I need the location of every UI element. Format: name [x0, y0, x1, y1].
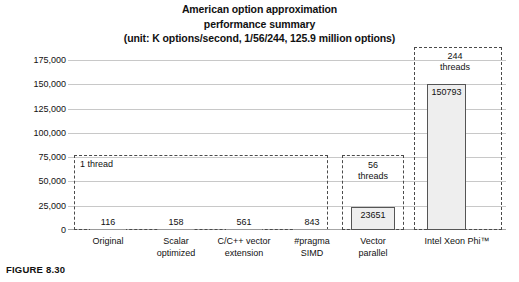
x-label-pragma-simd-line-1: #pragma [294, 236, 330, 246]
y-tick-label-0: 0 [4, 225, 66, 235]
x-label-original: Original [70, 236, 146, 248]
x-label-pragma-simd: #pragma SIMD [274, 236, 350, 259]
x-label-cpp-vector-extension-line-1: C/C++ vector [217, 236, 270, 246]
chart-title: American option approximation performanc… [0, 2, 519, 46]
y-tick-label-175000: 175,000 [4, 55, 66, 65]
y-tick-label-75000: 75,000 [4, 152, 66, 162]
figure-caption: FIGURE 8.30 [6, 264, 65, 275]
group-label-244-threads-line-2: threads [414, 62, 496, 73]
group-label-56-threads-line-2: threads [342, 171, 404, 182]
group-label-244-threads-line-1: 244 [414, 51, 496, 62]
y-tick-label-25000: 25,000 [4, 201, 66, 211]
bar-value-scalar-optimized: 158 [158, 217, 194, 227]
group-label-56-threads-line-1: 56 [342, 160, 404, 171]
bar-value-intel-xeon-phi: 150793 [428, 87, 465, 97]
bar-value-cpp-vector-extension: 561 [226, 217, 262, 227]
x-label-vector-parallel-line-1: Vector [360, 236, 386, 246]
chart-title-line-1: American option approximation [0, 2, 519, 17]
y-tick-label-50000: 50,000 [4, 176, 66, 186]
x-label-intel-xeon-phi-line-1: Intel Xeon Phi™ [424, 236, 489, 246]
bar-pragma-simd[interactable]: 843 [294, 229, 330, 230]
x-label-cpp-vector-extension-line-2: extension [225, 248, 264, 258]
x-label-original-line-1: Original [92, 236, 123, 246]
figure-container: American option approximation performanc… [0, 0, 519, 282]
chart-title-line-2: performance summary [0, 17, 519, 32]
bar-value-pragma-simd: 843 [294, 217, 330, 227]
bar-original[interactable]: 116 [90, 229, 126, 230]
x-axis-labels: Original Scalar optimized C/C++ vector e… [68, 236, 506, 266]
bar-scalar-optimized[interactable]: 158 [158, 229, 194, 230]
bar-value-original: 116 [90, 217, 126, 227]
bar-vector-parallel[interactable]: 23651 [351, 207, 395, 230]
x-label-scalar-optimized: Scalar optimized [138, 236, 214, 259]
x-label-scalar-optimized-line-1: Scalar [163, 236, 189, 246]
y-axis: 175,000 150,000 125,000 100,000 75,000 5… [0, 60, 66, 230]
y-tick-label-150000: 150,000 [4, 79, 66, 89]
x-label-vector-parallel: Vector parallel [342, 236, 404, 259]
y-tick-label-125000: 125,000 [4, 104, 66, 114]
x-label-pragma-simd-line-2: SIMD [301, 248, 324, 258]
group-label-1-thread: 1 thread [80, 159, 113, 170]
bar-intel-xeon-phi[interactable]: 150793 [427, 84, 466, 231]
x-label-cpp-vector-extension: C/C++ vector extension [206, 236, 282, 259]
x-label-intel-xeon-phi: Intel Xeon Phi™ [408, 236, 506, 248]
chart-title-line-3: (unit: K options/second, 1/56/244, 125.9… [0, 31, 519, 46]
plot-area: 1 thread 56 threads 244 threads 116 158 … [68, 60, 506, 230]
bar-cpp-vector-extension[interactable]: 561 [226, 229, 262, 230]
y-tick-label-100000: 100,000 [4, 128, 66, 138]
x-label-vector-parallel-line-2: parallel [358, 248, 387, 258]
x-label-scalar-optimized-line-2: optimized [157, 248, 196, 258]
bar-value-vector-parallel: 23651 [352, 210, 394, 220]
